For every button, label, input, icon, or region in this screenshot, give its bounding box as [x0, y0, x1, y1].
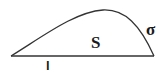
segment-label: l — [46, 59, 50, 72]
region-label: S — [91, 34, 100, 51]
curve-sigma — [11, 10, 154, 56]
curve-label: σ — [146, 21, 155, 38]
region-diagram — [0, 0, 164, 73]
